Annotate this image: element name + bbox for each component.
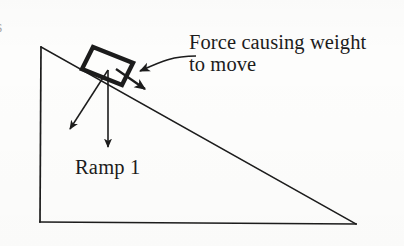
force-vectors [70, 69, 145, 147]
ramp-vertical-side [40, 47, 41, 222]
force-label: Force causing weight to move [189, 31, 366, 75]
ramp-base-side [40, 222, 356, 224]
diagram-canvas: Force causing weight to move Ramp 1 s [0, 0, 404, 246]
force-label-line2: to move [189, 53, 366, 75]
edge-text-fragment: s [0, 18, 2, 36]
normal-force-arrow [70, 70, 108, 129]
ramp-label: Ramp 1 [75, 156, 141, 178]
force-label-leader-line [140, 56, 196, 71]
force-label-line1: Force causing weight [189, 31, 366, 53]
